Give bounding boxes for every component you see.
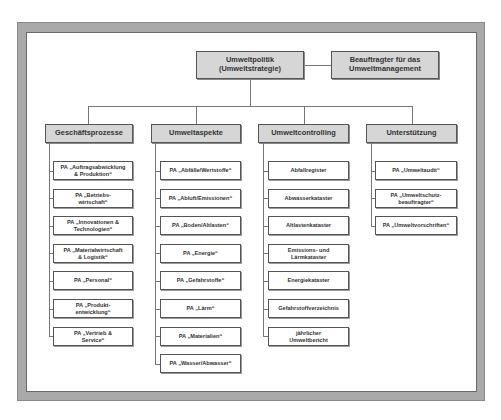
connector-root-side — [304, 65, 331, 66]
child-box: PA „Umweltschutz-beauftragter“ — [375, 189, 457, 208]
connector-spine-unterstuetzung — [371, 143, 372, 226]
child-box: Emissions- undLärmkataster — [268, 244, 349, 263]
connector-drop-2 — [304, 106, 305, 124]
connector-root-down — [250, 79, 251, 106]
child-box: PA „Materialwirtschaft& Logistik“ — [53, 244, 133, 263]
child-box: jährlicherUmweltbericht — [268, 327, 349, 346]
child-line1: PA „Umweltvorschriften“ — [383, 222, 450, 228]
child-line1: PA „Boden/Altlasten“ — [172, 222, 229, 228]
child-line1: PA „Wasser/Abwasser“ — [170, 360, 232, 366]
connector-drop-3 — [412, 106, 413, 124]
child-box: PA „Boden/Altlasten“ — [160, 216, 241, 235]
connector-drop-1 — [196, 106, 197, 124]
child-box: PA „Energie“ — [160, 244, 241, 263]
child-box: PA „Auftragsabwicklung& Produktion“ — [53, 161, 133, 180]
child-line1: PA „Lärm“ — [187, 305, 215, 311]
child-box: Abwasserkataster — [268, 189, 349, 208]
child-box: PA „Betriebs-wirtschaft“ — [53, 189, 133, 208]
child-line1: PA „Materialien“ — [179, 333, 223, 339]
connector-drop-0 — [88, 106, 89, 124]
child-box: PA „Wasser/Abwasser“ — [160, 354, 241, 373]
child-box: PA „Abfälle/Wertstoffe“ — [160, 161, 241, 180]
child-line2: entwicklung“ — [75, 309, 110, 315]
child-box: PA „Produkt-entwicklung“ — [53, 299, 133, 318]
child-box: Abfallregister — [268, 161, 349, 180]
child-line2: beauftragter“ — [398, 199, 433, 205]
child-box: PA „Personal“ — [53, 271, 133, 290]
child-box: PA „Umweltvorschriften“ — [375, 216, 457, 235]
child-line2: Umweltbericht — [289, 337, 328, 343]
root-box-umweltpolitik: Umweltpolitik (Umweltstrategie) — [196, 51, 304, 79]
side-box-beauftragter: Beauftragter für das Umweltmanagement — [331, 51, 439, 79]
child-box: PA „Abluft/Emissionen“ — [160, 189, 241, 208]
child-line1: Abfallregister — [290, 167, 326, 173]
child-line1: PA „Energie“ — [183, 250, 218, 256]
child-line2: & Produktion“ — [74, 171, 112, 177]
child-line1: PA „Umweltaudit“ — [392, 167, 440, 173]
child-box: PA „Vertrieb &Service“ — [53, 327, 133, 346]
child-line1: Abwasserkataster — [285, 195, 333, 201]
child-box: PA „Lärm“ — [160, 299, 241, 318]
side-line2: Umweltmanagement — [349, 65, 421, 74]
child-line1: Gefahrstoffverzeichnis — [278, 305, 339, 311]
child-box: Altlastenkataster — [268, 216, 349, 235]
category-box-umweltaspekte: Umweltaspekte — [151, 124, 241, 143]
child-box: Gefahrstoffverzeichnis — [268, 299, 349, 318]
child-line1: PA „Abfälle/Wertstoffe“ — [169, 167, 231, 173]
category-box-geschaeftsprozesse: Geschäftsprozesse — [45, 124, 133, 143]
child-line2: wirtschaft“ — [78, 199, 107, 205]
child-box: Energiekataster — [268, 271, 349, 290]
child-line1: PA „Gefahrstoffe“ — [177, 277, 225, 283]
child-line1: Altlastenkataster — [286, 222, 331, 228]
child-line2: & Logistik“ — [78, 254, 108, 260]
child-line1: Energiekataster — [288, 277, 330, 283]
category-label: Umweltaspekte — [169, 129, 223, 138]
child-box: PA „Materialien“ — [160, 327, 241, 346]
category-label: Unterstützung — [386, 129, 436, 138]
category-box-unterstuetzung: Unterstützung — [366, 124, 457, 143]
child-box: PA „Umweltaudit“ — [375, 161, 457, 180]
category-label: Umweltcontrolling — [271, 129, 335, 138]
category-label: Geschäftsprozesse — [55, 129, 123, 138]
child-line1: PA „Personal“ — [74, 277, 112, 283]
root-line2: (Umweltstrategie) — [219, 65, 281, 74]
child-box: PA „Gefahrstoffe“ — [160, 271, 241, 290]
connector-bus — [88, 106, 413, 107]
child-line2: Service“ — [82, 337, 105, 343]
child-line2: Technologien“ — [74, 226, 113, 232]
category-box-umweltcontrolling: Umweltcontrolling — [258, 124, 349, 143]
child-box: PA „Innovationen &Technologien“ — [53, 216, 133, 235]
child-line2: Lärmkataster — [291, 254, 326, 260]
child-line1: PA „Abluft/Emissionen“ — [169, 195, 232, 201]
